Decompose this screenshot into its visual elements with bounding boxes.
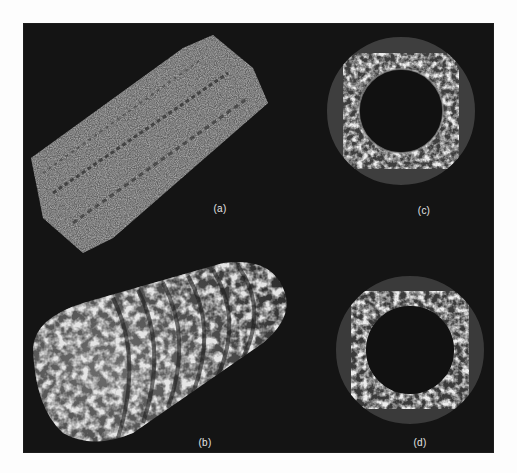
panel-label-d: (d) [414,437,427,448]
panel-label-c: (c) [418,205,430,216]
ring-c-image [313,23,494,238]
ring-d-image [313,263,494,453]
subfigure-b-surface-map: (b) [23,238,303,453]
panel-label-b: (b) [199,437,212,448]
figure-panel: (a) [23,23,494,453]
panel-label-a: (a) [214,203,227,214]
subfigure-c-ring-end-view: (c) [313,23,494,238]
atomic-model-image [23,23,283,263]
surface-map-image [23,238,303,453]
subfigure-d-ring-end-view: (d) [313,263,494,453]
subfigure-a-atomic-model: (a) [23,23,283,263]
